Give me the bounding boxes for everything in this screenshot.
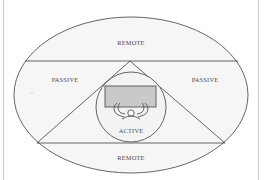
label-active: ACTIVE: [119, 127, 144, 134]
desk: [105, 86, 156, 107]
label-remote-top: REMOTE: [117, 39, 144, 46]
dot-marker: [31, 92, 32, 93]
label-passive-left: PASSIVE: [52, 76, 79, 83]
zone-diagram: REMOTE PASSIVE PASSIVE ACTIVE REMOTE: [0, 0, 264, 180]
label-passive-right: PASSIVE: [192, 76, 219, 83]
label-remote-bottom: REMOTE: [117, 154, 144, 161]
